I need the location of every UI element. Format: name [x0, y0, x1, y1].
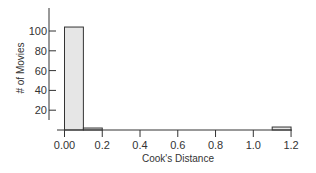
y-axis-ticks: 20406080100: [29, 25, 56, 116]
histogram-chart: 20406080100 0.000.20.40.60.81.01.2 Cook'…: [0, 0, 316, 173]
y-tick-label: 100: [29, 25, 47, 37]
histogram-bars: [65, 27, 292, 130]
x-tick-label: 0.4: [132, 139, 147, 151]
x-axis-label: Cook's Distance: [142, 153, 214, 164]
histogram-bar: [65, 27, 84, 130]
x-tick-label: 0.2: [95, 139, 110, 151]
y-tick-label: 20: [35, 104, 47, 116]
x-axis-ticks: 0.000.20.40.60.81.01.2: [54, 130, 299, 151]
y-tick-label: 60: [35, 65, 47, 77]
y-tick-label: 40: [35, 84, 47, 96]
x-tick-label: 0.00: [54, 139, 75, 151]
x-tick-label: 1.2: [283, 139, 298, 151]
x-tick-label: 0.8: [208, 139, 223, 151]
y-tick-label: 80: [35, 45, 47, 57]
y-axis-label: # of Movies: [15, 42, 26, 93]
x-tick-label: 0.6: [170, 139, 185, 151]
x-tick-label: 1.0: [246, 139, 261, 151]
